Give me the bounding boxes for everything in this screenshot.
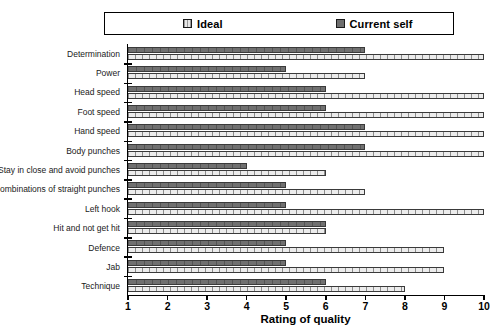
bar-group	[128, 256, 484, 275]
bar-current-self[interactable]	[128, 144, 365, 150]
y-axis-label: Technique	[0, 277, 124, 296]
y-axis-label: Foot speed	[0, 102, 124, 121]
bar-current-self[interactable]	[128, 66, 286, 72]
x-tick-label: 3	[204, 300, 210, 312]
bar-group	[128, 44, 484, 63]
bar-ideal[interactable]	[128, 112, 484, 118]
bar-current-self[interactable]	[128, 163, 247, 169]
bar-ideal[interactable]	[128, 151, 484, 157]
bar-group	[128, 102, 484, 121]
x-tick-label: 5	[283, 300, 289, 312]
y-axis-label: Head speed	[0, 83, 124, 102]
bar-group	[128, 160, 484, 179]
x-tick-label: 1	[125, 300, 131, 312]
bar-current-self[interactable]	[128, 221, 326, 227]
bar-group	[128, 141, 484, 160]
legend-entry-current-self: Current self	[336, 18, 413, 30]
bar-group	[128, 179, 484, 198]
bar-ideal[interactable]	[128, 286, 405, 292]
bar-ideal[interactable]	[128, 170, 326, 176]
x-tick-label: 4	[244, 300, 250, 312]
y-axis-category-labels: DeterminationPowerHead speedFoot speedHa…	[0, 44, 124, 296]
y-axis-label: Jab	[0, 257, 124, 276]
chart-legend: Ideal Current self	[104, 12, 454, 35]
bar-group	[128, 218, 484, 237]
bar-group	[128, 83, 484, 102]
bar-group	[128, 199, 484, 218]
bar-current-self[interactable]	[128, 182, 286, 188]
plot-area: 12345678910	[127, 44, 484, 296]
bar-rows	[128, 44, 484, 295]
x-tick-label: 6	[323, 300, 329, 312]
bar-group	[128, 276, 484, 295]
bar-current-self[interactable]	[128, 240, 286, 246]
y-axis-label: Determination	[0, 44, 124, 63]
bar-current-self[interactable]	[128, 202, 286, 208]
x-axis-title: Rating of quality	[127, 313, 484, 325]
bar-current-self[interactable]	[128, 105, 326, 111]
bar-current-self[interactable]	[128, 86, 326, 92]
bar-group	[128, 63, 484, 82]
x-tick-label: 9	[442, 300, 448, 312]
bar-ideal[interactable]	[128, 93, 484, 99]
x-tick-label: 10	[478, 300, 490, 312]
y-axis-label: Hand speed	[0, 122, 124, 141]
y-axis-label: Hit and not get hit	[0, 219, 124, 238]
legend-entry-ideal: Ideal	[183, 18, 223, 30]
bar-ideal[interactable]	[128, 54, 484, 60]
chart-root: Ideal Current self DeterminationPowerHea…	[0, 0, 493, 335]
x-tick-label: 7	[362, 300, 368, 312]
y-axis-label: Power	[0, 63, 124, 82]
bar-current-self[interactable]	[128, 260, 286, 266]
y-axis-label: Combinations of straight punches	[0, 180, 124, 199]
legend-label-ideal: Ideal	[197, 18, 223, 30]
x-tick-label: 2	[165, 300, 171, 312]
bar-group	[128, 237, 484, 256]
bar-ideal[interactable]	[128, 247, 444, 253]
bar-current-self[interactable]	[128, 47, 365, 53]
bar-ideal[interactable]	[128, 228, 326, 234]
y-axis-label: Defence	[0, 238, 124, 257]
legend-swatch-current-self-icon	[336, 19, 345, 28]
y-axis-label: Left hook	[0, 199, 124, 218]
bar-ideal[interactable]	[128, 131, 484, 137]
x-tick-label: 8	[402, 300, 408, 312]
bar-ideal[interactable]	[128, 189, 365, 195]
bar-ideal[interactable]	[128, 267, 444, 273]
bar-current-self[interactable]	[128, 124, 365, 130]
legend-swatch-ideal-icon	[183, 19, 192, 28]
bar-ideal[interactable]	[128, 209, 484, 215]
legend-label-current-self: Current self	[350, 18, 413, 30]
bar-group	[128, 121, 484, 140]
y-axis-label: Body punches	[0, 141, 124, 160]
bar-ideal[interactable]	[128, 73, 365, 79]
bar-current-self[interactable]	[128, 279, 326, 285]
y-axis-label: Stay in close and avoid punches	[0, 160, 124, 179]
